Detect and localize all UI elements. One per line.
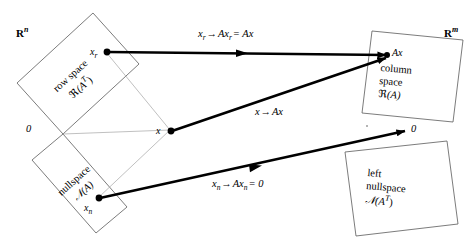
left-nullspace-arg: (A (374, 196, 385, 208)
diagram-canvas: Rn Rm row space ℜ(AT) nullspace 𝒩(A) col… (0, 0, 475, 251)
point-x-n-sub: n (88, 207, 92, 216)
mapping-label-row-space: xr → Axr = Ax (198, 29, 253, 42)
map1-arrow: → (206, 28, 217, 39)
domain-label-text: R (16, 27, 24, 39)
left-nullspace-close: ) (389, 197, 393, 208)
codomain-label-text: R (444, 27, 452, 39)
map3-rhs: Ax (233, 178, 244, 189)
scan-speck (366, 125, 368, 127)
point-x (168, 128, 175, 135)
point-x-n (96, 195, 103, 202)
point-label-Ax: Ax (392, 48, 403, 58)
mapping-label-nullspace: xn → Axn = 0 (212, 179, 263, 192)
column-space-label: column space ℜ(A) (378, 61, 453, 107)
arrow-midmarker-1 (236, 50, 248, 58)
map3-lhs-sub: n (217, 183, 221, 192)
left-nullspace-label: left nullspace 𝒩(AT) (364, 166, 453, 214)
point-label-x-r: xr (90, 47, 97, 60)
map1-rhs: Ax (218, 28, 229, 39)
column-space-arg: (A) (387, 89, 401, 101)
codomain-label: Rm (444, 26, 458, 39)
map3-eq: = 0 (248, 178, 263, 189)
point-label-x-n: xn (84, 203, 92, 216)
point-x-r-sub: r (94, 51, 97, 60)
point-label-x: x (156, 126, 160, 136)
codomain-label-superscript: m (452, 25, 458, 34)
origin-right-label: 0 (411, 124, 416, 135)
map3-arrow: → (221, 178, 232, 189)
map2-rhs: Ax (272, 106, 283, 117)
point-Ax-base: Ax (392, 47, 403, 58)
arrow-x-to-Ax (172, 58, 386, 131)
decomposition-guide-2 (63, 130, 170, 134)
arrow-midmarker-3 (249, 165, 262, 173)
point-x-base: x (156, 125, 160, 136)
mapping-label-general: x → Ax (255, 107, 283, 118)
map1-rhs-sub: r (229, 33, 232, 42)
map3-rhs-sub: n (244, 183, 248, 192)
domain-label-superscript: n (24, 25, 28, 34)
map1-eq: = Ax (233, 28, 254, 39)
map2-arrow: → (261, 106, 272, 117)
point-Ax (384, 52, 390, 58)
map2-lhs: x (255, 106, 260, 117)
domain-label: Rn (16, 26, 28, 39)
origin-left-label: 0 (26, 124, 31, 135)
